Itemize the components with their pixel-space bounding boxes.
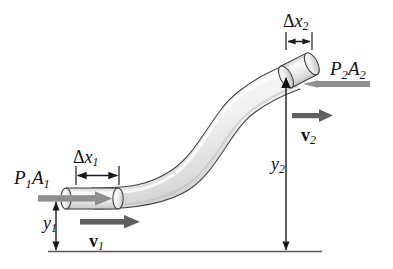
figure-canvas: [0, 0, 393, 269]
label-height-inlet: y1: [43, 214, 57, 235]
label-pressure-force-outlet: P2A2: [330, 59, 366, 81]
label-height-outlet: y2: [271, 155, 285, 176]
dimension-delta-x2: [286, 32, 312, 50]
label-displacement-outlet: Δx2: [283, 12, 309, 33]
bernoulli-flow-figure: P1A1 P2A2 Δx1 Δx2 y1 y2 v1 v2: [0, 0, 393, 269]
label-velocity-outlet: v2: [301, 126, 316, 147]
velocity-arrow-inlet: [80, 215, 140, 229]
pipe-tube: [92, 65, 300, 209]
label-velocity-inlet: v1: [89, 232, 104, 253]
label-displacement-inlet: Δx1: [73, 148, 99, 169]
velocity-arrow-outlet: [292, 109, 333, 122]
label-pressure-force-inlet: P1A1: [14, 168, 50, 190]
pipe-body-fill: [92, 65, 300, 209]
inlet-cylinder-front-cap: [113, 188, 123, 209]
